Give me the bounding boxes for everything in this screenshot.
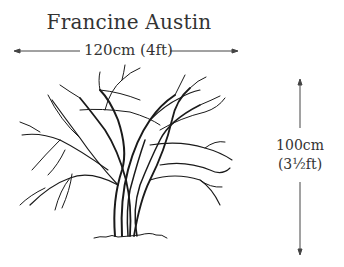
- height-imperial: (3½ft): [270, 155, 330, 174]
- width-dimension-label: 120cm (4ft): [84, 41, 173, 59]
- height-metric: 100cm: [270, 136, 330, 155]
- shrub-illustration: [20, 65, 232, 238]
- height-dimension-label: 100cm (3½ft): [270, 136, 330, 174]
